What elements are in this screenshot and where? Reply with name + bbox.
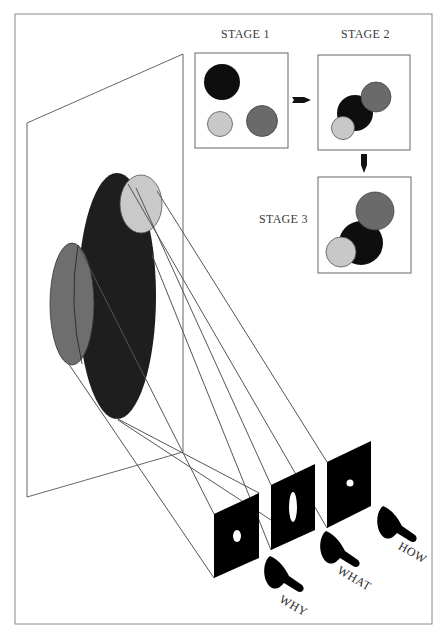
stage-3-label: STAGE 3	[259, 212, 308, 227]
projector-what-icon	[320, 531, 359, 567]
stage-2-box	[318, 55, 410, 150]
projector-how-icon	[377, 506, 416, 542]
stage-2-label: STAGE 2	[341, 27, 390, 42]
diagram-canvas	[0, 0, 445, 638]
arrow-right-icon	[292, 97, 311, 103]
stage-3-box	[318, 177, 411, 273]
stage-1-box	[195, 53, 288, 148]
screen-why	[214, 493, 259, 578]
screen-what	[271, 464, 315, 550]
dark-gray-ellipse	[50, 243, 94, 365]
light-gray-ellipse	[120, 175, 162, 233]
projector-why-icon	[264, 556, 303, 592]
stage-1-label: STAGE 1	[221, 27, 270, 42]
arrow-down-icon	[361, 154, 367, 173]
screen-how	[327, 441, 371, 528]
